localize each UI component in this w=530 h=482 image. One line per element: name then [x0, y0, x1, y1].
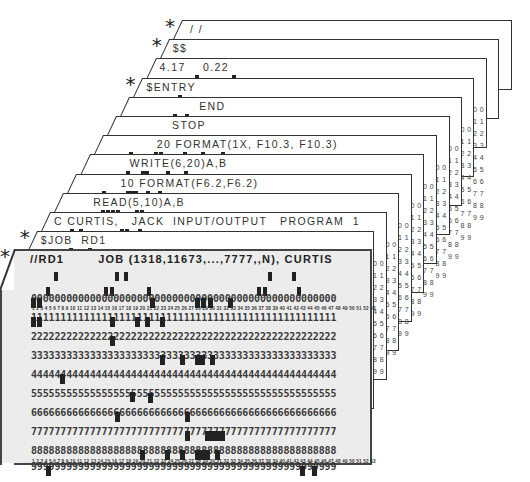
card-punch-hole — [205, 450, 210, 460]
card-punch-hole — [145, 317, 150, 327]
card-punch-hole — [54, 272, 58, 281]
card-digit-row: 7777777777777777777777777777777777777777… — [31, 426, 336, 437]
asterisk-marker-icon: * — [20, 227, 30, 247]
card-punch-hole — [200, 355, 205, 365]
card-punch-hole — [115, 412, 120, 422]
card-text: / / — [190, 23, 203, 35]
card-text: C CURTIS, JACK INPUT/OUTPUT PROGRAM 1 — [54, 215, 360, 227]
card-digit-row: 2222222222222222222222222222222222222222… — [31, 331, 336, 342]
card-text: STOP — [172, 119, 206, 131]
card-punch-hole — [31, 317, 36, 327]
card-edge-digits: 0 0 1 1 2 2 3 3 4 4 5 5 6 6 7 7 8 8 9 9 — [448, 143, 459, 263]
card-punch-hole — [160, 355, 165, 365]
asterisk-marker-icon: * — [125, 74, 135, 94]
card-punch-hole — [140, 450, 145, 460]
card-punch-hole — [31, 298, 36, 308]
card-punch-hole — [60, 374, 65, 384]
card-text: $$ — [173, 42, 187, 54]
card-edge-digits: 0 0 1 1 2 2 3 3 4 4 5 5 6 6 7 7 8 8 9 9 — [461, 124, 472, 244]
card-text: 4.17 0.22 — [160, 61, 229, 73]
card-text: WRITE(6,20)A,B — [130, 157, 228, 169]
card-punch-hole — [185, 431, 190, 441]
card-edge-digits: 0 0 1 1 2 2 3 3 4 4 5 5 6 6 7 7 8 8 9 9 — [386, 239, 397, 359]
card-digit-row: 6666666666666666666666666666666666666666… — [31, 407, 336, 418]
card-punch-hole — [37, 298, 42, 308]
card-punch-hole — [37, 317, 42, 327]
card-punch-hole — [180, 450, 185, 460]
card-punch-hole — [130, 392, 135, 402]
card-punch-hole — [160, 317, 165, 327]
card-punch-hole — [135, 317, 140, 327]
card-edge-digits: 0 0 1 1 2 2 3 3 4 4 5 5 6 6 7 7 8 8 9 9 — [373, 258, 384, 378]
card-punch-hole — [220, 431, 225, 441]
card-text: READ(5,10)A,B — [93, 196, 185, 208]
punched-card-deck-diagram: / /*$$*4.17 0.220 0 1 1 2 2 3 3 4 4 5 5 … — [0, 0, 530, 482]
card-punch-hole — [292, 272, 296, 281]
card-edge-digits: 0 0 1 1 2 2 3 3 4 4 5 5 6 6 7 7 8 8 9 9 — [436, 162, 447, 282]
card-digit-row: 5555555555555555555555555555555555555555… — [31, 388, 336, 399]
card-edge-digits: 0 0 1 1 2 2 3 3 4 4 5 5 6 6 7 7 8 8 9 9 — [423, 181, 434, 301]
card-punch-hole — [46, 466, 51, 476]
card-text: 20 FORMAT(1X, F10.3, F10.3) — [157, 138, 338, 150]
card-punch-hole — [268, 272, 272, 281]
card-punch-hole — [228, 298, 233, 308]
card-punch-hole — [124, 272, 128, 281]
front-card-text: //RD1 JOB (1318,11673,...,7777,,N), CURT… — [30, 253, 333, 265]
card-text: 10 FORMAT(F6.2,F6.2) — [120, 177, 258, 189]
card-punch-hole — [185, 412, 190, 422]
card-digit-row: 4444444444444444444444444444444444444444… — [31, 369, 336, 380]
card-punch-hole — [300, 466, 305, 476]
card-digit-row: 1111111111111111111111111111111111111111… — [31, 312, 336, 323]
asterisk-marker-icon: * — [165, 16, 175, 36]
card-punch-hole — [180, 355, 185, 365]
card-punch-hole — [110, 317, 115, 327]
card-edge-digits: 0 0 1 1 2 2 3 3 4 4 5 5 6 6 7 7 8 8 9 9 — [398, 220, 409, 340]
card-punch-hole — [208, 298, 213, 308]
card-edge-digits: 0 0 1 1 2 2 3 3 4 4 5 5 6 6 7 7 8 8 9 9 — [411, 200, 422, 320]
card-punch-hole — [195, 298, 200, 308]
asterisk-marker-icon: * — [0, 246, 10, 266]
card-punch-hole — [312, 466, 317, 476]
card-text: $ENTRY — [146, 81, 196, 93]
card-edge-digits: 0 0 1 1 2 2 3 3 4 4 5 5 6 6 7 7 8 8 9 9 — [473, 104, 484, 224]
card-text: END — [199, 100, 225, 112]
card-punch-hole — [110, 336, 115, 346]
card-punch-hole — [210, 355, 215, 365]
card-punch-hole — [215, 450, 220, 460]
front-card-fill — [2, 290, 16, 463]
card-punch-hole — [148, 393, 153, 403]
card-punch-hole — [165, 450, 170, 460]
card-digit-row: 0000000000000000000000000000000000000000… — [31, 293, 336, 304]
card-punch-hole — [115, 272, 119, 281]
card-punch-hole — [201, 298, 206, 308]
asterisk-marker-icon: * — [152, 35, 162, 55]
card-punch-hole — [150, 298, 155, 308]
card-text: $JOB RD1 — [41, 234, 107, 246]
